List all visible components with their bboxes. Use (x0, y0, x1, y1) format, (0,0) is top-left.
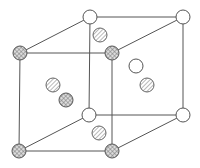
atom-front-top-right (105, 46, 119, 60)
atom-left-face-lower (59, 93, 73, 107)
edge-front-bottom-left-to-back-bottom-left (19, 115, 89, 151)
atom-back-top-right (176, 10, 190, 24)
unit-cell-diagram (0, 0, 200, 168)
edge-front-bottom-left-to-front-top-left (19, 53, 20, 151)
atom-front-bottom-right (105, 144, 119, 158)
atom-bottom-face (92, 126, 106, 140)
atom-left-face-upper (46, 78, 60, 92)
atom-front-bottom-left (12, 144, 26, 158)
edge-front-top-right-to-back-top-right (112, 17, 183, 53)
atom-right-face-lower (140, 78, 154, 92)
atom-right-face-upper (129, 59, 143, 73)
atom-back-bottom-right (176, 108, 190, 122)
atom-top-face (93, 28, 107, 42)
atom-front-top-left (13, 46, 27, 60)
cell-atoms (12, 10, 190, 158)
edge-front-bottom-right-to-back-bottom-right (112, 115, 183, 151)
edge-front-top-left-to-back-top-left (20, 17, 90, 53)
atom-back-top-left (83, 10, 97, 24)
atom-back-bottom-left (82, 108, 96, 122)
edge-back-bottom-left-to-back-top-left (89, 17, 90, 115)
